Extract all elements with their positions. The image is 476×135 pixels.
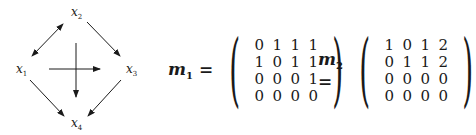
matrix-equation-m2: m2 = ( 1012 0112 0000 0000 ) (318, 30, 476, 110)
cell: 0 (250, 70, 268, 88)
matrix-label-m2: m2 = (318, 49, 343, 91)
cell: 1 (250, 53, 268, 71)
cell: 0 (416, 70, 434, 88)
left-paren: ( (359, 32, 370, 108)
cell: 0 (434, 87, 452, 105)
edge-x3-x4 (88, 80, 121, 116)
cell: 1 (286, 53, 304, 71)
cell: 0 (416, 87, 434, 105)
cell: 0 (434, 70, 452, 88)
node-x1: x1 (16, 62, 27, 78)
edge-x2-x3 (87, 22, 120, 56)
cell: 1 (416, 53, 434, 71)
cell: 0 (398, 36, 416, 54)
cell: 0 (268, 70, 286, 88)
right-paren: ) (462, 32, 473, 108)
cell: 0 (286, 87, 304, 105)
cell: 0 (398, 70, 416, 88)
cell: 0 (268, 53, 286, 71)
node-x4: x4 (71, 116, 82, 132)
cell: 2 (434, 36, 452, 54)
cell: 0 (268, 87, 286, 105)
cell: 0 (398, 87, 416, 105)
cell: 1 (268, 36, 286, 54)
cell: 1 (398, 53, 416, 71)
node-x2: x2 (71, 5, 82, 21)
edge-x1-x2 (32, 24, 63, 56)
cell: 0 (250, 87, 268, 105)
cell: 0 (250, 36, 268, 54)
matrix-m2: 1012 0112 0000 0000 (380, 36, 452, 104)
cell: 1 (286, 36, 304, 54)
cell: 1 (416, 36, 434, 54)
node-x3: x3 (126, 62, 137, 78)
left-paren: ( (229, 32, 240, 108)
matrix-m1: 0111 1011 0001 0000 (250, 36, 322, 104)
cell: 1 (380, 36, 398, 54)
cell: 0 (380, 53, 398, 71)
cell: 2 (434, 53, 452, 71)
cell: 0 (380, 87, 398, 105)
cell: 0 (286, 70, 304, 88)
edge-x1-x4 (30, 80, 64, 116)
cell: 0 (380, 70, 398, 88)
matrix-label-m1: m1 = (168, 59, 213, 81)
